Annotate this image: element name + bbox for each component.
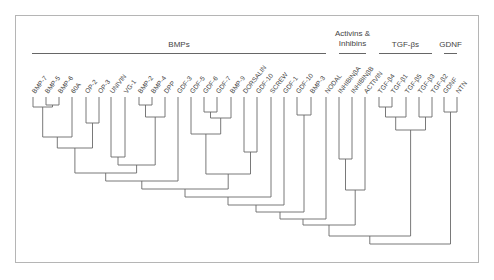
group-label: TGF-βs: [392, 40, 419, 49]
leaf-label: 60A: [69, 81, 82, 95]
group-label: Activins &: [335, 29, 371, 38]
dendrogram: BMPsActivins &InhibinsTGF-βsGDNFBMP-7BMP…: [0, 0, 494, 280]
group-label: GDNF: [439, 40, 462, 49]
leaf-label: OP-2: [83, 78, 98, 95]
group-label: BMPs: [168, 40, 189, 49]
group-label: Inhibins: [339, 39, 367, 48]
